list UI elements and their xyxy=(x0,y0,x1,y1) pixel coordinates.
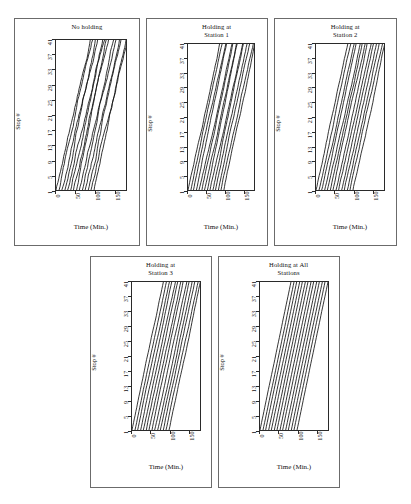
y-tick-label: 37 xyxy=(251,296,257,302)
trajectory-lines xyxy=(316,44,384,190)
y-tick-label: 5 xyxy=(179,176,185,179)
x-tick-label: 50 xyxy=(75,193,81,199)
vehicle-trajectory xyxy=(325,44,356,190)
vehicle-trajectory xyxy=(163,282,194,430)
y-tick-label: 37 xyxy=(123,296,129,302)
y-tick-label: 25 xyxy=(307,102,313,108)
panel-holding-station-3: Holding at Station 3 4137332925211713951… xyxy=(90,256,212,488)
figure-panel-grid: No holding 4137332925211713951Stop # 050… xyxy=(0,0,411,504)
chart-holding-station-3: 4137332925211713951Stop # 050100150Time … xyxy=(91,257,211,487)
vehicle-trajectory xyxy=(294,282,325,430)
y-tick-label: 9 xyxy=(123,401,129,404)
vehicle-trajectory xyxy=(271,282,302,430)
y-tick-label: 25 xyxy=(47,100,53,106)
plot-area xyxy=(315,43,385,191)
x-axis-label: Time (Min.) xyxy=(259,463,329,471)
x-tick-label: 0 xyxy=(131,434,137,437)
y-axis: 4137332925211713951Stop # xyxy=(275,43,315,191)
y-tick-label: 5 xyxy=(47,176,53,179)
y-axis: 4137332925211713951Stop # xyxy=(219,281,259,431)
panel-holding-station-2: Holding at Station 2 4137332925211713951… xyxy=(274,18,397,246)
y-tick-label: 17 xyxy=(307,132,313,138)
y-tick-label: 9 xyxy=(251,401,257,404)
y-tick-label: 37 xyxy=(307,58,313,64)
x-tick-label: 150 xyxy=(373,191,379,200)
x-tick-label: 150 xyxy=(244,191,250,200)
trajectory-lines xyxy=(260,282,328,430)
x-tick-label: 0 xyxy=(187,194,193,197)
x-tick-label: 50 xyxy=(278,433,284,439)
y-axis-label: Stop # xyxy=(218,354,225,371)
y-axis-label: Stop # xyxy=(274,115,281,132)
y-tick-label: 1 xyxy=(47,191,53,194)
y-tick-label: 29 xyxy=(251,326,257,332)
y-tick-label: 9 xyxy=(307,161,313,164)
plot-area xyxy=(131,281,201,431)
y-axis-label: Stop # xyxy=(14,113,21,130)
y-tick-label: 21 xyxy=(47,115,53,121)
y-tick-label: 33 xyxy=(123,311,129,317)
x-axis-label: Time (Min.) xyxy=(187,223,255,231)
y-tick-label: 21 xyxy=(251,356,257,362)
x-tick-label: 150 xyxy=(115,191,121,200)
x-axis: 050100150Time (Min.) xyxy=(55,191,127,239)
y-tick-label: 21 xyxy=(179,117,185,123)
y-tick-label: 5 xyxy=(307,176,313,179)
panel-no-holding: No holding 4137332925211713951Stop # 050… xyxy=(14,18,140,246)
x-axis: 050100150Time (Min.) xyxy=(131,431,201,479)
y-tick-label: 13 xyxy=(47,145,53,151)
y-tick-label: 1 xyxy=(307,191,313,194)
vehicle-trajectory xyxy=(221,44,253,190)
y-tick-label: 13 xyxy=(251,386,257,392)
x-tick-label: 100 xyxy=(225,191,231,200)
chart-no-holding: 4137332925211713951Stop # 050100150Time … xyxy=(15,19,139,245)
y-axis: 4137332925211713951Stop # xyxy=(91,281,131,431)
y-axis-label: Stop # xyxy=(146,115,153,132)
y-tick-label: 25 xyxy=(251,341,257,347)
plot-area xyxy=(55,39,127,191)
plot-area xyxy=(259,281,329,431)
y-tick-label: 29 xyxy=(179,87,185,93)
panel-holding-station-1: Holding at Station 1 4137332925211713951… xyxy=(146,18,268,246)
chart-holding-station-1: 4137332925211713951Stop # 050100150Time … xyxy=(147,19,267,245)
y-tick-label: 21 xyxy=(123,356,129,362)
x-axis-label: Time (Min.) xyxy=(315,223,385,231)
y-tick-label: 13 xyxy=(307,147,313,153)
x-axis: 050100150Time (Min.) xyxy=(315,191,385,239)
vehicle-trajectory xyxy=(291,282,322,430)
x-tick-label: 100 xyxy=(354,191,360,200)
x-tick-label: 100 xyxy=(95,191,101,200)
y-tick-label: 1 xyxy=(251,431,257,434)
x-tick-label: 150 xyxy=(189,431,195,440)
y-tick-label: 17 xyxy=(47,130,53,136)
x-tick-label: 0 xyxy=(55,194,61,197)
chart-holding-station-2: 4137332925211713951Stop # 050100150Time … xyxy=(275,19,396,245)
y-tick-label: 41 xyxy=(307,43,313,49)
y-tick-label: 25 xyxy=(123,341,129,347)
vehicle-trajectory xyxy=(216,44,248,190)
vehicle-trajectory xyxy=(297,282,328,430)
y-tick-label: 17 xyxy=(251,371,257,377)
y-tick-label: 37 xyxy=(179,58,185,64)
y-tick-label: 29 xyxy=(307,87,313,93)
x-tick-label: 50 xyxy=(334,193,340,199)
x-tick-label: 100 xyxy=(170,431,176,440)
x-axis: 050100150Time (Min.) xyxy=(187,191,255,239)
y-tick-label: 37 xyxy=(47,54,53,60)
y-tick-label: 41 xyxy=(179,43,185,49)
x-tick-label: 100 xyxy=(298,431,304,440)
y-tick-label: 33 xyxy=(251,311,257,317)
trajectory-lines xyxy=(56,40,126,190)
y-tick-label: 25 xyxy=(179,102,185,108)
y-tick-label: 33 xyxy=(179,73,185,79)
y-tick-label: 9 xyxy=(47,161,53,164)
x-tick-label: 150 xyxy=(317,431,323,440)
y-tick-label: 13 xyxy=(123,386,129,392)
trajectory-lines xyxy=(188,44,254,190)
vehicle-trajectory xyxy=(288,282,319,430)
y-tick-label: 5 xyxy=(251,416,257,419)
y-tick-label: 1 xyxy=(179,191,185,194)
vehicle-trajectory xyxy=(260,282,291,430)
y-tick-label: 29 xyxy=(47,85,53,91)
y-tick-label: 13 xyxy=(179,147,185,153)
